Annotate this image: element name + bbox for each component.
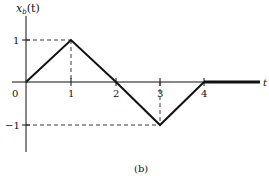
y-tick-label-1: 1	[13, 35, 19, 46]
x-axis-label: t	[263, 77, 268, 88]
origin-label: 0	[12, 88, 18, 99]
x-tick-label-2: 2	[113, 88, 119, 99]
figure-caption: (b)	[134, 163, 148, 174]
x-tick-label-3: 3	[157, 88, 163, 99]
signal-plot: xb(t) t 0 1 2 3 4 1 −1 (b)	[0, 0, 269, 176]
x-tick-label-1: 1	[68, 88, 74, 99]
y-tick-label-neg1: −1	[5, 120, 20, 131]
y-axis-label: xb(t)	[16, 2, 40, 16]
x-tick-label-4: 4	[201, 88, 207, 99]
